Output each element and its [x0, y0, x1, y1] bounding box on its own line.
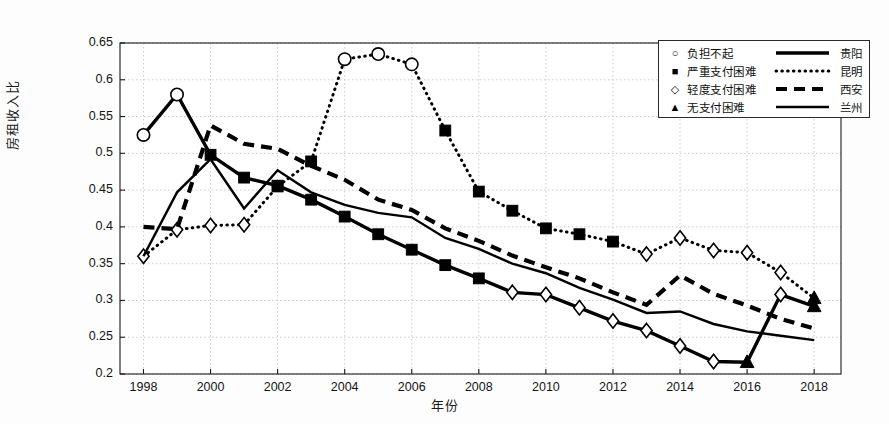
y-tick-label: 0.45: [58, 182, 113, 196]
data-point-square: [440, 260, 451, 271]
legend-affordability-label: 无支付困难: [687, 99, 773, 115]
legend-item-昆明: ■严重支付困难昆明: [663, 62, 865, 80]
legend-item-西安: ◇轻度支付困难西安: [663, 80, 865, 98]
x-tick-label: 2016: [717, 380, 777, 394]
data-point-square: [373, 229, 384, 240]
y-tick-label: 0.2: [58, 366, 113, 380]
x-tick-label: 2014: [650, 380, 710, 394]
y-tick-label: 0.6: [58, 72, 113, 86]
data-point-circle: [338, 53, 350, 65]
chart-screenshot: 房租收入比 年份 0.20.250.30.350.40.450.50.550.6…: [0, 0, 889, 424]
y-tick-label: 0.5: [58, 145, 113, 159]
x-tick-label: 2012: [583, 380, 643, 394]
legend-city-label: 西安: [835, 81, 865, 97]
x-tick-label: 2006: [382, 380, 442, 394]
y-tick-label: 0.55: [58, 109, 113, 123]
legend-affordability-label: 轻度支付困难: [687, 81, 773, 97]
x-tick-label: 2004: [315, 380, 375, 394]
chart-legend: ○负担不起贵阳■严重支付困难昆明◇轻度支付困难西安▲无支付困难兰州: [658, 40, 870, 118]
diamond-marker-icon: ◇: [663, 84, 687, 95]
legend-line-sample-dashed: [773, 82, 835, 96]
legend-city-label: 贵阳: [835, 45, 865, 61]
y-tick-label: 0.3: [58, 292, 113, 306]
legend-affordability-label: 严重支付困难: [687, 63, 773, 79]
square-marker-icon: ■: [663, 66, 687, 77]
legend-item-贵阳: ○负担不起贵阳: [663, 44, 865, 62]
y-tick-label: 0.4: [58, 219, 113, 233]
data-point-square: [272, 181, 283, 192]
x-tick-label: 1998: [113, 380, 173, 394]
x-axis-label: 年份: [0, 395, 889, 414]
data-point-square: [239, 172, 250, 183]
data-point-circle: [406, 58, 418, 70]
data-point-square: [608, 236, 619, 247]
legend-city-label: 兰州: [835, 99, 865, 115]
triangle-marker-icon: ▲: [663, 102, 687, 113]
legend-affordability-label: 负担不起: [687, 45, 773, 61]
y-tick-label: 0.25: [58, 329, 113, 343]
y-axis-label: 房租收入比: [2, 30, 21, 150]
data-point-square: [406, 244, 417, 255]
legend-line-sample-solid-thick: [773, 46, 835, 60]
legend-city-label: 昆明: [835, 63, 865, 79]
x-tick-label: 2018: [784, 380, 844, 394]
data-point-square: [473, 273, 484, 284]
data-point-square: [540, 223, 551, 234]
x-tick-label: 2010: [516, 380, 576, 394]
x-tick-label: 2000: [181, 380, 241, 394]
data-point-square: [507, 205, 518, 216]
legend-line-sample-dotted: [773, 64, 835, 78]
circle-marker-icon: ○: [663, 48, 687, 59]
data-point-circle: [171, 88, 183, 100]
data-point-square: [440, 125, 451, 136]
data-point-square: [306, 194, 317, 205]
data-point-square: [339, 211, 350, 222]
y-tick-label: 0.65: [58, 35, 113, 49]
data-point-circle: [137, 129, 149, 141]
x-tick-label: 2008: [449, 380, 509, 394]
data-point-circle: [372, 48, 384, 60]
data-point-square: [473, 186, 484, 197]
data-point-square: [574, 229, 585, 240]
legend-item-兰州: ▲无支付困难兰州: [663, 98, 865, 116]
x-tick-label: 2002: [248, 380, 308, 394]
legend-line-sample-solid: [773, 100, 835, 114]
y-tick-label: 0.35: [58, 256, 113, 270]
